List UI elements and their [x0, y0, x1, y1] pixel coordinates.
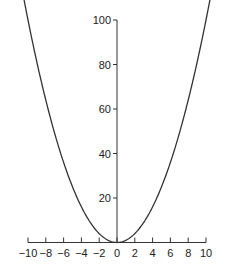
x-tick-label: −6 [57, 247, 70, 259]
x-tick-label: 4 [150, 247, 156, 259]
x-tick-label: −10 [19, 247, 38, 259]
y-tick-label: 80 [99, 59, 111, 71]
x-tick-label: 0 [114, 247, 120, 259]
y-axis-ticks: 20406080100 [93, 14, 117, 204]
x-tick-label: −4 [75, 247, 88, 259]
x-tick-label: −2 [93, 247, 106, 259]
x-tick-label: 6 [167, 247, 173, 259]
y-tick-label: 40 [99, 148, 111, 160]
x-axis-ticks: −10−8−6−4−20246810 [19, 238, 212, 259]
x-tick-label: 8 [185, 247, 191, 259]
y-tick-label: 100 [93, 14, 111, 26]
chart-canvas: −10−8−6−4−20246810 20406080100 [0, 0, 227, 271]
y-tick-label: 60 [99, 103, 111, 115]
x-tick-label: 10 [200, 247, 212, 259]
y-tick-label: 20 [99, 192, 111, 204]
parabola-chart: −10−8−6−4−20246810 20406080100 [0, 0, 227, 271]
x-tick-label: −8 [40, 247, 53, 259]
x-tick-label: 2 [132, 247, 138, 259]
